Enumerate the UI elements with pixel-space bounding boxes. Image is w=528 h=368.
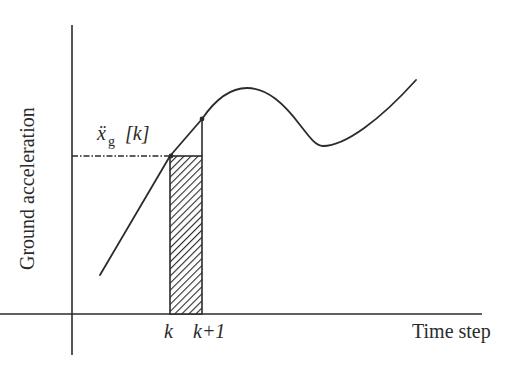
value-label-symbol: ẍ: [96, 122, 106, 144]
hatched-integration-area: [170, 156, 202, 314]
tick-label-k-plus-1: k+1: [193, 320, 225, 342]
ground-acceleration-diagram: ẍ g [k] k k+1 Time step Ground accelerat…: [0, 0, 528, 368]
value-label-subscript: g: [108, 134, 115, 149]
tick-label-k: k: [164, 320, 174, 342]
value-label: ẍ g [k]: [96, 122, 149, 149]
x-axis-label: Time step: [412, 320, 491, 343]
sample-point-k-plus-1: [200, 117, 205, 122]
acceleration-curve: [100, 80, 416, 275]
y-axis-label: Ground acceleration: [16, 107, 38, 270]
value-label-index: [k]: [125, 122, 149, 144]
sample-point-k: [169, 154, 174, 159]
